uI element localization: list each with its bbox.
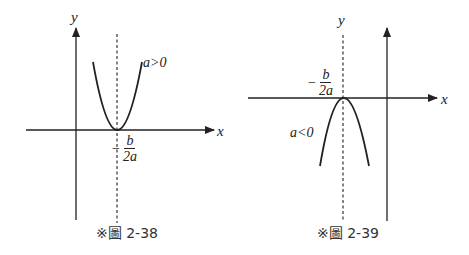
figure-2-38-graphics (26, 28, 214, 223)
x-axis-label: x (217, 124, 224, 139)
diagram-graphics (0, 0, 469, 255)
y-axis-label: y (338, 13, 345, 28)
y-axis-label: y (71, 10, 78, 25)
denominator: 2a (319, 83, 333, 98)
curve-label: a>0 (143, 56, 166, 70)
figure-2-39-graphics (248, 28, 437, 222)
vertex-label: − b 2a (308, 68, 333, 98)
minus-sign: − (112, 141, 120, 157)
curve-label: a<0 (290, 126, 313, 140)
vertex-label: − b 2a (112, 134, 137, 164)
diagram-stage: y x a>0 − b 2a ※圖 2-38 y x a<0 − b 2a ※圖… (0, 0, 469, 255)
figure-caption: ※圖 2-38 (96, 226, 158, 240)
numerator: b (124, 134, 135, 149)
numerator: b (320, 68, 331, 83)
denominator: 2a (123, 149, 137, 164)
minus-sign: − (308, 75, 316, 91)
parabola-down (320, 98, 369, 166)
x-axis-label: x (441, 92, 448, 107)
figure-caption: ※圖 2-39 (317, 226, 379, 240)
